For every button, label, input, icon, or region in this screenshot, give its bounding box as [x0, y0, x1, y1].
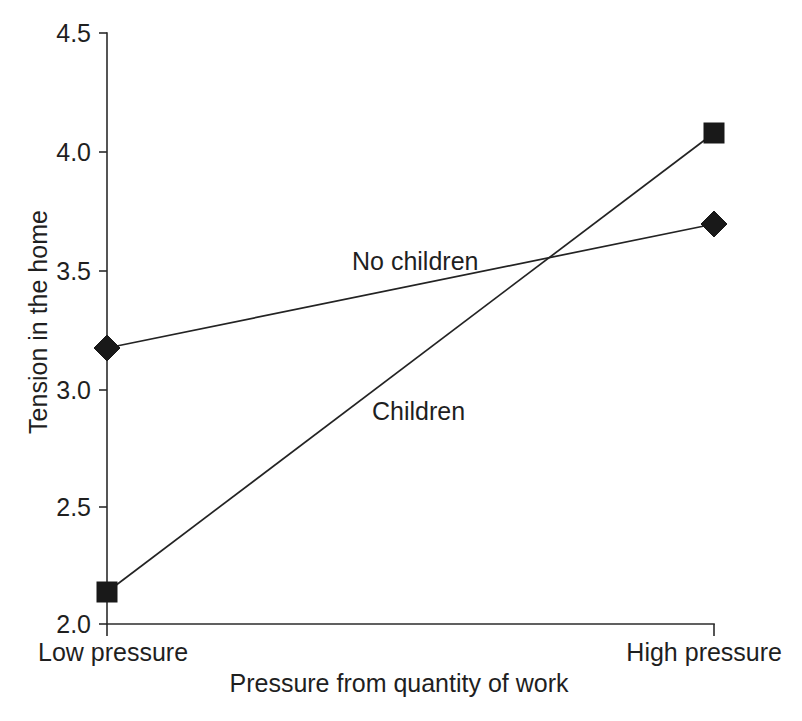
- series-no-children-line: [107, 224, 714, 348]
- x-axis-title: Pressure from quantity of work: [229, 669, 569, 697]
- y-tick-label-2-5: 2.5: [56, 493, 91, 521]
- axis-group: [99, 33, 714, 636]
- series-no-children-marker-low: [94, 335, 120, 361]
- series-children: [97, 123, 724, 602]
- series-label-no-children: No children: [352, 247, 478, 275]
- y-axis-title: Tension in the home: [24, 210, 52, 434]
- x-category-label-low: Low pressure: [38, 638, 188, 666]
- chart-figure: 4.5 4.0 3.5 3.0 2.5 2.0 Tension in the h…: [0, 0, 802, 721]
- series-no-children: [94, 211, 727, 361]
- y-tick-label-3-0: 3.0: [56, 376, 91, 404]
- y-tick-label-4-0: 4.0: [56, 138, 91, 166]
- y-tick-label-4-5: 4.5: [56, 19, 91, 47]
- y-tick-label-2-0: 2.0: [56, 610, 91, 638]
- line-chart: 4.5 4.0 3.5 3.0 2.5 2.0 Tension in the h…: [0, 0, 802, 721]
- x-category-label-high: High pressure: [626, 638, 782, 666]
- y-tick-labels: 4.5 4.0 3.5 3.0 2.5 2.0: [56, 19, 91, 638]
- series-children-line: [107, 133, 714, 592]
- y-tick-label-3-5: 3.5: [56, 257, 91, 285]
- series-label-children: Children: [372, 397, 465, 425]
- series-no-children-marker-high: [701, 211, 727, 237]
- series-children-marker-high: [704, 123, 724, 143]
- series-children-marker-low: [97, 582, 117, 602]
